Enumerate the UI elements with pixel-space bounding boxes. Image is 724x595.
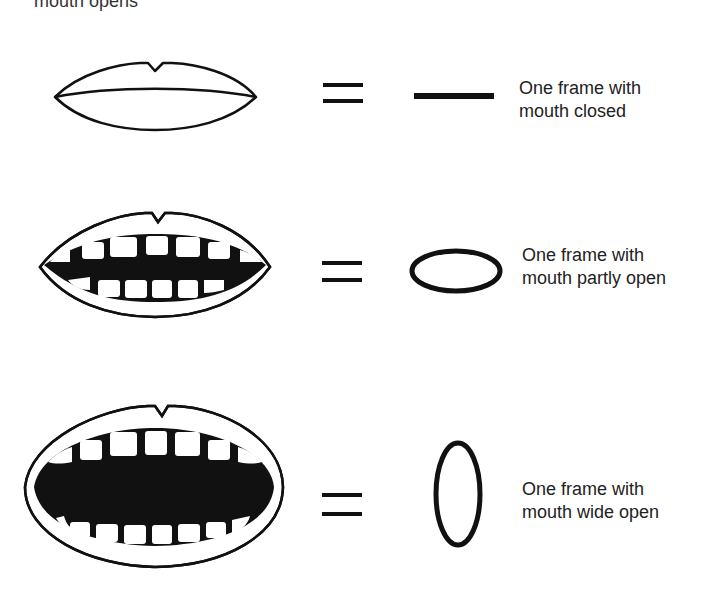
label-line: mouth partly open (522, 267, 666, 290)
closed-symbol-line-icon (414, 93, 494, 99)
closed-mouth-icon (55, 63, 256, 130)
label-line: mouth wide open (522, 501, 659, 524)
equals-sign-icon (322, 261, 362, 282)
equals-sign-icon (323, 83, 363, 103)
row-closed-label: One frame with mouth closed (519, 77, 641, 123)
label-line: One frame with (522, 244, 666, 267)
wide-open-mouth-icon (25, 406, 283, 567)
partly-open-symbol-ellipse-icon (412, 251, 500, 291)
row-partly-open-label: One frame with mouth partly open (522, 244, 666, 290)
partly-open-mouth-icon (40, 213, 270, 317)
row-wide-open-label: One frame with mouth wide open (522, 478, 659, 524)
wide-open-symbol-ellipse-icon (436, 443, 480, 545)
equals-sign-icon (322, 493, 362, 516)
label-line: One frame with (519, 77, 641, 100)
label-line: One frame with (522, 478, 659, 501)
label-line: mouth closed (519, 100, 641, 123)
